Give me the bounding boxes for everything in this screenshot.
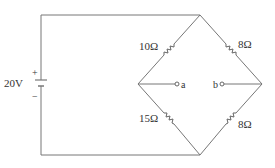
resistor-top-left xyxy=(164,44,174,55)
node-a-terminal xyxy=(175,82,179,86)
source-plus-label: + xyxy=(32,67,38,78)
resistor-bottom-left-label: 15Ω xyxy=(139,112,158,124)
resistor-bottom-left xyxy=(164,113,174,124)
resistor-top-left-label: 10Ω xyxy=(139,40,158,52)
bridge-wires xyxy=(138,15,262,155)
source-minus-label: − xyxy=(32,91,38,102)
resistor-top-right xyxy=(226,44,236,55)
source-voltage-label: 20V xyxy=(4,77,23,89)
circuit-diagram: 20V + − 10Ω 8Ω 15Ω 8Ω a b xyxy=(0,0,275,168)
node-a-label: a xyxy=(181,79,186,90)
node-b-terminal xyxy=(220,82,224,86)
resistor-top-right-label: 8Ω xyxy=(238,38,252,50)
resistor-bottom-right-label: 8Ω xyxy=(238,118,252,130)
battery-symbol xyxy=(35,80,47,86)
node-b-label: b xyxy=(213,79,218,90)
resistor-bottom-right xyxy=(226,113,236,124)
